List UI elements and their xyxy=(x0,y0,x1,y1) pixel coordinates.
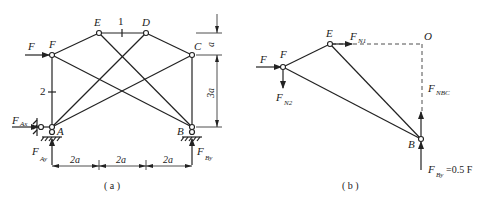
svg-text:Ax: Ax xyxy=(19,120,28,128)
load-FAy-label: F xyxy=(31,145,39,157)
dim-2a-2: 2a xyxy=(116,154,126,165)
svg-text:F: F xyxy=(349,30,357,42)
node-F-b xyxy=(281,65,286,70)
member-label-1: 1 xyxy=(118,15,124,27)
label-B: B xyxy=(177,125,184,137)
node-F xyxy=(50,53,55,58)
load-FAx-label: F xyxy=(11,114,19,126)
panel-b xyxy=(256,42,424,171)
svg-text:O: O xyxy=(424,30,432,42)
dim-3a: 3a xyxy=(205,88,216,99)
dim-2a-1: 2a xyxy=(70,154,80,165)
node-A xyxy=(50,125,55,130)
caption-a: ( a ) xyxy=(104,180,120,192)
node-E xyxy=(97,31,102,36)
truss-diagram: E D F C A B 1 2 F F Ax F Ay F By 2a 2a 2… xyxy=(0,0,487,211)
node-B xyxy=(190,125,195,130)
node-D xyxy=(144,31,149,36)
svg-text:F: F xyxy=(275,91,283,103)
load-F-label: F xyxy=(27,40,35,52)
node-E-b xyxy=(328,42,333,47)
svg-text:F: F xyxy=(427,163,435,175)
node-B-b xyxy=(419,137,424,142)
member-EB xyxy=(99,33,192,127)
svg-text:B: B xyxy=(408,138,415,150)
svg-text:F: F xyxy=(427,82,435,94)
svg-text:By: By xyxy=(205,154,213,162)
member-DC xyxy=(146,33,192,55)
member-label-2: 2 xyxy=(40,85,46,97)
member-DA xyxy=(52,33,146,127)
svg-text:By: By xyxy=(436,171,444,179)
label-A: A xyxy=(56,125,64,137)
svg-text:F: F xyxy=(259,53,267,65)
member-FE xyxy=(52,33,99,55)
svg-text:Ay: Ay xyxy=(39,155,48,163)
svg-text:F: F xyxy=(279,48,287,60)
label-E: E xyxy=(93,16,101,28)
svg-text:=0.5 F: =0.5 F xyxy=(446,164,473,175)
caption-b: ( b ) xyxy=(342,180,359,192)
dim-2a-3: 2a xyxy=(163,154,173,165)
svg-text:NBC: NBC xyxy=(435,89,450,97)
svg-text:E: E xyxy=(325,27,333,39)
dim-a: a xyxy=(205,42,216,47)
node-C xyxy=(190,53,195,58)
label-D: D xyxy=(141,16,150,28)
label-F: F xyxy=(48,38,56,50)
label-C: C xyxy=(194,40,202,52)
svg-text:N1: N1 xyxy=(357,37,366,45)
load-FBy-label: F xyxy=(196,145,204,157)
svg-text:N2: N2 xyxy=(283,99,293,107)
